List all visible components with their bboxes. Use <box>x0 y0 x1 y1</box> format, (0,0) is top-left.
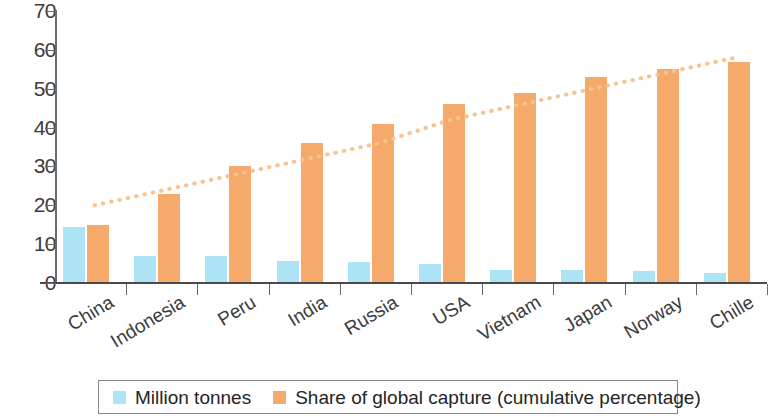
bar-group <box>197 11 268 283</box>
legend-item: Million tonnes <box>113 388 251 407</box>
legend-label: Million tonnes <box>135 388 251 407</box>
legend-swatch-icon <box>273 391 286 404</box>
x-axis-tick <box>411 284 412 295</box>
y-axis-tick <box>45 205 56 206</box>
y-axis-tick <box>45 89 56 90</box>
bar-group <box>55 11 126 283</box>
bar-group <box>411 11 482 283</box>
x-axis-label-text: Norway <box>621 292 686 341</box>
bar-group <box>696 11 767 283</box>
x-axis-tick <box>625 284 626 295</box>
bar-group <box>625 11 696 283</box>
bar-cumulative-share <box>158 194 180 283</box>
x-axis-label-text: Japan <box>561 292 615 335</box>
x-axis-label-text: Russia <box>342 292 402 338</box>
y-axis-tick <box>45 283 56 284</box>
y-axis-tick <box>45 50 56 51</box>
bar-cumulative-share <box>657 69 679 283</box>
x-axis-tick <box>197 284 198 295</box>
x-axis-label-text: India <box>285 292 330 330</box>
y-axis-tick <box>45 128 56 129</box>
x-axis-tick <box>767 284 768 295</box>
bar-cumulative-share <box>87 225 109 283</box>
x-axis-tick <box>340 284 341 295</box>
bar-cumulative-share <box>301 143 323 283</box>
y-axis-line <box>55 10 57 284</box>
x-axis-tick <box>696 284 697 295</box>
bar-cumulative-share <box>514 93 536 283</box>
bar-group <box>340 11 411 283</box>
x-axis-tick <box>553 284 554 295</box>
x-axis-label-text: China <box>64 292 116 334</box>
legend-item: Share of global capture (cumulative perc… <box>273 388 701 407</box>
y-axis-tick <box>45 244 56 245</box>
bar-group <box>482 11 553 283</box>
bar-chart: 010203040506070 ChinaIndonesiaPeruIndiaR… <box>0 0 780 417</box>
bar-cumulative-share <box>443 104 465 283</box>
x-axis-labels: ChinaIndonesiaPeruIndiaRussiaUSAVietnamJ… <box>55 292 767 362</box>
bar-cumulative-share <box>372 124 394 283</box>
y-axis-tick <box>45 11 56 12</box>
bar-group <box>126 11 197 283</box>
y-axis-tick <box>45 166 56 167</box>
x-axis-label-text: Peru <box>215 292 259 329</box>
x-axis-tick <box>126 284 127 295</box>
bar-cumulative-share <box>585 77 607 283</box>
x-axis-tick <box>269 284 270 295</box>
legend-swatch-icon <box>113 391 126 404</box>
bar-cumulative-share <box>728 62 750 283</box>
plot-area <box>55 11 767 283</box>
x-axis-line <box>40 282 767 284</box>
x-axis-label-text: USA <box>429 292 472 328</box>
bar-group <box>269 11 340 283</box>
chart-legend: Million tonnesShare of global capture (c… <box>98 380 678 414</box>
bar-group <box>553 11 624 283</box>
legend-label: Share of global capture (cumulative perc… <box>295 388 701 407</box>
bar-million-tonnes <box>63 227 85 283</box>
x-axis-label-text: Chille <box>707 292 758 333</box>
x-axis-tick <box>482 284 483 295</box>
